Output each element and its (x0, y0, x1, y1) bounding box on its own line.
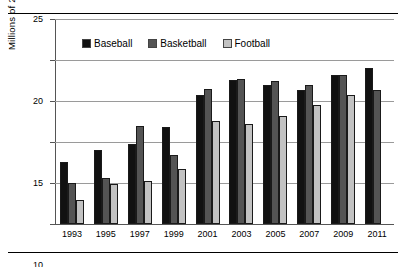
bar-basketball-2003 (237, 79, 245, 224)
bar-basketball-2005 (271, 81, 279, 224)
bar-basketball-1993 (68, 183, 76, 224)
bar-basketball-1995 (102, 178, 110, 224)
bar-group-2005: 2005 (258, 19, 292, 224)
x-tick-label-2007: 2007 (292, 229, 326, 239)
bar-baseball-2003 (229, 80, 237, 224)
y-tick-label-10: 10 (33, 261, 43, 267)
x-tick-label-2011: 2011 (360, 229, 394, 239)
bar-baseball-2007 (297, 90, 305, 224)
bar-football-1999 (178, 169, 186, 224)
bar-basketball-2009 (339, 75, 347, 224)
x-axis (55, 224, 394, 225)
bar-baseball-2011 (365, 68, 373, 224)
bar-baseball-1999 (162, 127, 170, 224)
bar-baseball-2005 (263, 85, 271, 224)
bar-football-1995 (110, 184, 118, 224)
bar-group-2009: 2009 (326, 19, 360, 224)
bar-baseball-1995 (94, 150, 102, 224)
x-tick-label-2009: 2009 (326, 229, 360, 239)
y-tick-0: 0 (50, 224, 55, 225)
bar-baseball-1993 (60, 162, 68, 224)
bar-group-2001: 2001 (191, 19, 225, 224)
bar-football-1993 (76, 200, 84, 224)
bar-football-2007 (313, 105, 321, 224)
x-tick-label-1999: 1999 (157, 229, 191, 239)
y-tick-label-25: 25 (33, 15, 43, 24)
bar-group-2011: 2011 (360, 19, 394, 224)
x-tick-label-2005: 2005 (258, 229, 292, 239)
bar-baseball-2009 (331, 75, 339, 224)
bar-football-2009 (347, 95, 355, 224)
bar-football-2003 (245, 124, 253, 224)
bar-group-2003: 2003 (225, 19, 259, 224)
bar-group-2007: 2007 (292, 19, 326, 224)
bar-football-2005 (279, 116, 287, 224)
bar-group-1999: 1999 (157, 19, 191, 224)
bar-baseball-1997 (128, 144, 136, 224)
bar-basketball-2011 (373, 90, 381, 224)
x-tick-label-2003: 2003 (225, 229, 259, 239)
bar-groups: 1993199519971999200120032005200720092011 (55, 19, 394, 224)
x-tick-label-1997: 1997 (123, 229, 157, 239)
bar-football-2001 (212, 121, 220, 224)
x-tick-label-1993: 1993 (55, 229, 89, 239)
figure-top-rule (8, 13, 398, 14)
plot-area: 0510152025 19931995199719992001200320052… (55, 19, 394, 224)
y-tick-label-15: 15 (33, 179, 43, 188)
bar-group-1997: 1997 (123, 19, 157, 224)
bar-basketball-2007 (305, 85, 313, 224)
bar-group-1993: 1993 (55, 19, 89, 224)
bar-basketball-1999 (170, 155, 178, 224)
bar-basketball-2001 (204, 89, 212, 224)
bar-baseball-2001 (196, 95, 204, 224)
bar-football-1997 (144, 181, 152, 224)
bar-basketball-1997 (136, 126, 144, 224)
x-tick-label-1995: 1995 (89, 229, 123, 239)
x-tick-label-2001: 2001 (191, 229, 225, 239)
chart-figure: Millions of 2010 dollars Baseball Basket… (0, 0, 406, 267)
figure-bottom-rule (8, 252, 398, 253)
bar-group-1995: 1995 (89, 19, 123, 224)
y-axis-label: Millions of 2010 dollars (6, 0, 17, 50)
y-tick-label-20: 20 (33, 97, 43, 106)
